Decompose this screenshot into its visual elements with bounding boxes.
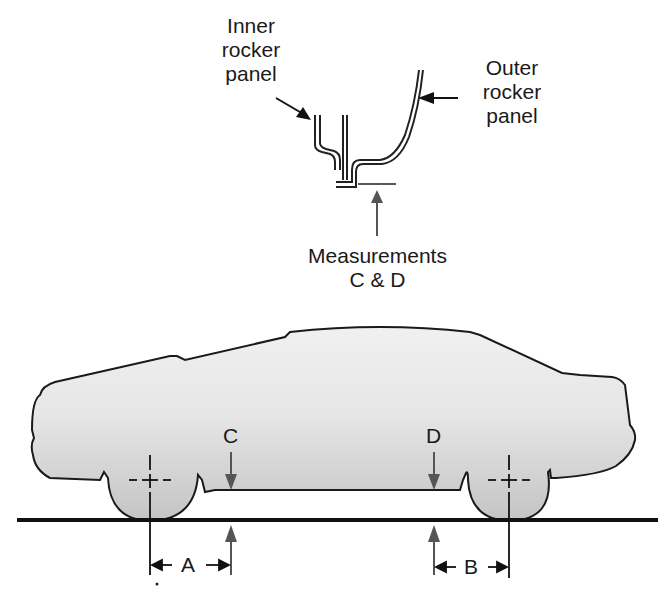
inner-rocker-label: Inner rocker panel (196, 14, 306, 86)
label-a: A (181, 553, 195, 577)
label-c: C (223, 424, 238, 448)
outer-rocker-label: Outer rocker panel (462, 56, 562, 128)
outer-rocker-arrow (418, 92, 458, 104)
inner-rocker-line-2: rocker (196, 38, 306, 62)
car-body (32, 327, 635, 521)
rocker-panel-section (315, 70, 423, 187)
inner-rocker-line-1: Inner (196, 14, 306, 38)
inner-rocker-arrow (276, 98, 311, 120)
outer-rocker-line-2: rocker (462, 80, 562, 104)
c-up-arrow (225, 525, 237, 575)
outer-rocker-line-3: panel (462, 104, 562, 128)
measurements-arrow (371, 190, 383, 236)
outer-rocker-line-1: Outer (462, 56, 562, 80)
label-b: B (464, 555, 478, 579)
rocker-panel-measurement-diagram (0, 0, 669, 591)
measurements-label: Measurements C & D (285, 244, 470, 292)
measurements-line-2: C & D (285, 268, 470, 292)
measurements-line-1: Measurements (285, 244, 470, 268)
label-d: D (426, 424, 441, 448)
speck (156, 583, 159, 586)
inner-rocker-line-3: panel (196, 62, 306, 86)
